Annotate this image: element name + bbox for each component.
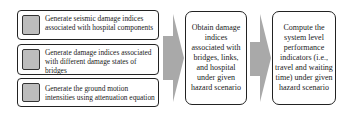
middle-step: Obtain damage indices associated with br…: [185, 11, 247, 105]
gray-marker-icon: [22, 15, 40, 35]
input-step-1-label: Generate seismic damage indices associat…: [45, 14, 155, 32]
input-step-2-label: Generate damage indices associated with …: [45, 48, 155, 75]
right-arrow-icon: [163, 14, 185, 102]
input-step-3: Generate the ground motion intensities u…: [17, 78, 159, 107]
gray-marker-icon: [22, 49, 40, 70]
right-arrow-icon: [250, 14, 272, 102]
final-step: Compute the system level performance ind…: [272, 11, 336, 105]
input-step-2: Generate damage indices associated with …: [17, 44, 159, 75]
input-step-1: Generate seismic damage indices associat…: [17, 10, 159, 40]
final-step-label: Compute the system level performance ind…: [275, 23, 333, 93]
gray-marker-icon: [22, 83, 40, 102]
input-step-3-label: Generate the ground motion intensities u…: [45, 84, 155, 102]
middle-step-label: Obtain damage indices associated with br…: [188, 23, 244, 93]
